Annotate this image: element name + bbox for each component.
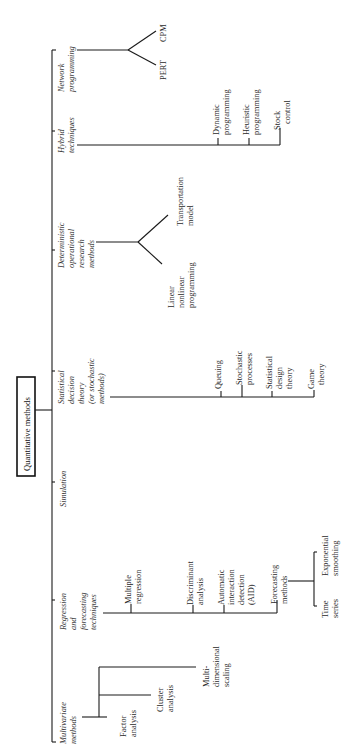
category-hybrid-techniques: Hybrid techniques Dynamic programming He… bbox=[57, 89, 292, 154]
category-network-programming: Network programming PERT CPM bbox=[57, 24, 168, 93]
branch-transportation bbox=[138, 215, 168, 242]
category-label: Regression and forecasting techniques bbox=[59, 591, 98, 631]
leaf-cluster-analysis: Cluster analysis bbox=[156, 685, 175, 712]
category-multivariate-methods: Multivariate methods Factor analysis Clu… bbox=[59, 644, 231, 745]
leaf-time-series: Time series bbox=[321, 599, 340, 618]
leaf-stochastic-processes: Stochastic processes bbox=[235, 348, 254, 385]
category-label: Deterministic operational research metho… bbox=[57, 220, 96, 269]
leaf-multidimensional-scaling: Multi- dimensional scaling bbox=[202, 644, 231, 687]
leaf-pert: PERT bbox=[159, 60, 168, 80]
leaf-stock-control: Stock control bbox=[273, 100, 292, 130]
leaf-forecasting-methods: Forecasting methods bbox=[270, 563, 289, 604]
leaf-statistical-design-theory: Statistical design theory bbox=[265, 354, 294, 389]
category-label: Multivariate methods bbox=[59, 700, 78, 745]
category-label: Network programming bbox=[57, 46, 76, 93]
root-label: Quantitative methods bbox=[22, 397, 32, 471]
branch-pert bbox=[128, 50, 156, 65]
leaf-cpm: CPM bbox=[159, 24, 168, 42]
leaf-exponential-smoothing: Exponential smoothing bbox=[321, 533, 340, 576]
branch-linear bbox=[138, 242, 162, 264]
leaf-factor-analysis: Factor analysis bbox=[119, 710, 138, 737]
root-node: Quantitative methods bbox=[17, 377, 35, 476]
leaf-aid: Automatic interaction detection (AID) bbox=[217, 567, 256, 605]
category-deterministic-or-methods: Deterministic operational research metho… bbox=[57, 175, 196, 308]
leaf-linear-nonlinear-programming: Linear nonlinear programming bbox=[167, 262, 196, 308]
leaf-game-theory: Game theory bbox=[307, 363, 326, 389]
category-ticks bbox=[52, 50, 56, 742]
leaf-dynamic-programming: Dynamic programming bbox=[212, 89, 231, 135]
category-label: Hybrid techniques bbox=[57, 117, 76, 154]
category-statistical-decision-theory: Statistical decision theory (or stochast… bbox=[57, 348, 326, 404]
category-label: Simulation bbox=[59, 471, 68, 507]
leaf-discriminant-analysis: Discriminant analysis bbox=[186, 559, 205, 605]
leaf-transportation-model: Transportation model bbox=[176, 175, 195, 226]
leaf-multiple-regression: Multiple regression bbox=[124, 569, 143, 604]
category-simulation: Simulation bbox=[59, 471, 68, 507]
branch-cpm bbox=[128, 31, 156, 50]
category-label: Statistical decision theory (or stochast… bbox=[57, 356, 106, 404]
quantitative-methods-diagram: Quantitative methods Network programming… bbox=[0, 0, 352, 756]
leaf-queuing: Queuing bbox=[214, 359, 223, 389]
category-regression-forecasting: Regression and forecasting techniques Mu… bbox=[59, 533, 340, 631]
leaf-heuristic-programming: Heuristic programming bbox=[242, 89, 261, 135]
